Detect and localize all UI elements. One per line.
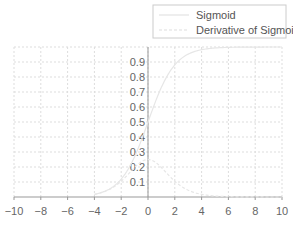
y-tick-label: 0.6 bbox=[130, 101, 145, 113]
y-tick-label: 0.7 bbox=[130, 86, 145, 98]
legend: Sigmoid Derivative of Sigmoid bbox=[153, 5, 293, 38]
x-tick-label: −6 bbox=[61, 205, 74, 217]
legend-derivative-label: Derivative of Sigmoid bbox=[196, 24, 293, 36]
x-tick-label: 6 bbox=[225, 205, 231, 217]
y-tick-label: 0.1 bbox=[130, 176, 145, 188]
x-tick-label: 10 bbox=[276, 205, 288, 217]
x-tick-label: −2 bbox=[115, 205, 128, 217]
y-axis-ticks: 0.10.20.30.40.50.60.70.80.9 bbox=[130, 56, 145, 188]
x-tick-label: −8 bbox=[35, 205, 48, 217]
x-axis-ticks: −10−8−6−4−20246810 bbox=[5, 197, 288, 217]
x-tick-label: −10 bbox=[5, 205, 24, 217]
y-tick-label: 0.3 bbox=[130, 146, 145, 158]
y-tick-label: 0.9 bbox=[130, 56, 145, 68]
y-tick-label: 0.8 bbox=[130, 71, 145, 83]
x-tick-label: 0 bbox=[145, 205, 151, 217]
y-tick-label: 0.5 bbox=[130, 116, 145, 128]
x-tick-label: 4 bbox=[199, 205, 205, 217]
sigmoid-chart: −10−8−6−4−20246810 0.10.20.30.40.50.60.7… bbox=[0, 0, 293, 230]
x-tick-label: −4 bbox=[88, 205, 101, 217]
x-tick-label: 2 bbox=[172, 205, 178, 217]
legend-sigmoid-label: Sigmoid bbox=[196, 9, 236, 21]
x-tick-label: 8 bbox=[252, 205, 258, 217]
sigmoid-line bbox=[94, 47, 282, 194]
